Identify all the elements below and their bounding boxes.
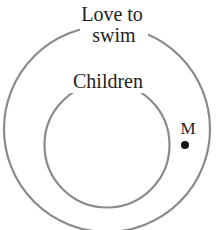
venn-diagram: Love to swim Children M [0,0,224,230]
point-m-dot [181,141,189,149]
outer-set-label-line2: swim [80,25,148,45]
inner-circle-children [45,83,170,208]
point-label: M [176,120,200,137]
inner-set-label: Children [64,69,152,93]
outer-set-label-line1: Love to [72,4,152,24]
